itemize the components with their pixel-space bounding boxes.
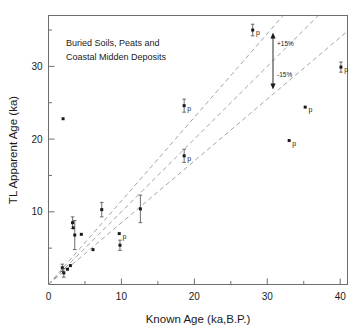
x-tick-label: 10 bbox=[116, 291, 128, 302]
chart-figure: 010203040102030 ppppppp +15% -15% Buried… bbox=[0, 0, 364, 335]
chart-title-line-2: Coastal Midden Deposits bbox=[66, 52, 167, 62]
data-point-label: p bbox=[187, 155, 191, 163]
scatter-plot-svg: 010203040102030 ppppppp +15% -15% Buried… bbox=[0, 0, 364, 335]
data-point bbox=[183, 104, 186, 107]
data-point bbox=[118, 232, 121, 235]
data-point bbox=[183, 154, 186, 157]
data-point bbox=[62, 271, 65, 274]
y-axis-label: TL Apparent Age (ka) bbox=[7, 96, 19, 204]
data-point bbox=[69, 264, 72, 267]
data-point bbox=[100, 208, 103, 211]
chart-title-line-1: Buried Soils, Peats and bbox=[66, 38, 160, 48]
y-tick-label: 10 bbox=[31, 206, 43, 217]
data-point bbox=[62, 117, 65, 120]
data-point-label: p bbox=[292, 140, 296, 148]
data-point bbox=[251, 29, 254, 32]
x-axis-label: Known Age (ka,B.P.) bbox=[146, 313, 251, 325]
y-tick-label: 30 bbox=[31, 61, 43, 72]
data-point bbox=[73, 234, 76, 237]
x-tick-label: 30 bbox=[262, 291, 274, 302]
data-point bbox=[66, 268, 69, 271]
y-tick-label: 20 bbox=[31, 134, 43, 145]
data-point bbox=[118, 244, 121, 247]
data-point bbox=[139, 207, 142, 210]
data-point bbox=[288, 139, 291, 142]
x-tick-label: 20 bbox=[189, 291, 201, 302]
reference-line-minus-15-percent bbox=[49, 31, 348, 284]
data-point-label: p bbox=[187, 105, 191, 113]
minus-15-percent-label: -15% bbox=[277, 71, 292, 78]
plus-15-percent-label: +15% bbox=[277, 40, 294, 47]
data-point-label: p bbox=[344, 66, 348, 74]
data-point-label: p bbox=[122, 233, 126, 241]
data-point bbox=[71, 221, 74, 224]
data-point bbox=[80, 233, 83, 236]
data-point bbox=[304, 106, 307, 109]
data-point bbox=[91, 248, 94, 251]
x-tick-label: 0 bbox=[46, 291, 52, 302]
axis-ticks: 010203040102030 bbox=[31, 30, 346, 301]
x-tick-label: 40 bbox=[335, 291, 347, 302]
data-point bbox=[72, 226, 75, 229]
plus-minus-15-arrow bbox=[270, 33, 275, 90]
data-point-label: p bbox=[308, 106, 312, 114]
data-points: ppppppp bbox=[61, 24, 349, 277]
data-point-label: p bbox=[256, 29, 260, 37]
data-point bbox=[339, 66, 342, 69]
